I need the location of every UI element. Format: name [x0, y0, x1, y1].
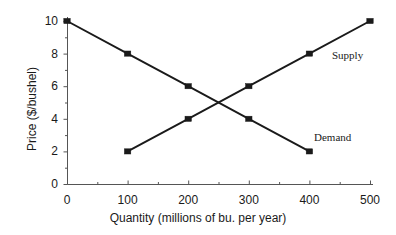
data-point-marker-supply-400 — [306, 51, 312, 56]
supply-demand-chart: 10 8 6 4 2 0 0 100 200 300 400 500 Price… — [0, 0, 396, 235]
data-point-marker-supply-500 — [367, 18, 373, 23]
x-tick-label-200: 200 — [168, 194, 208, 206]
series-label-supply: Supply — [332, 50, 363, 61]
data-point-marker-demand-100 — [124, 51, 130, 56]
y-tick-label-8: 8 — [36, 48, 58, 60]
y-tick-label-6: 6 — [36, 80, 58, 92]
data-point-marker-demand-0 — [64, 18, 70, 23]
y-tick-label-0: 0 — [36, 178, 58, 190]
x-axis-title: Quantity (millions of bu. per year) — [0, 212, 396, 224]
data-point-marker-supply-100 — [124, 149, 130, 154]
data-point-marker-demand-200 — [185, 84, 191, 89]
x-tick-label-0: 0 — [47, 194, 87, 206]
x-tick-label-400: 400 — [289, 194, 329, 206]
y-tick-label-2: 2 — [36, 145, 58, 157]
x-tick-label-500: 500 — [350, 194, 390, 206]
y-tick-label-4: 4 — [36, 113, 58, 125]
data-point-marker-demand-300 — [246, 116, 252, 121]
data-point-marker-supply-300 — [246, 84, 252, 89]
x-tick-label-300: 300 — [229, 194, 269, 206]
y-axis-title: Price ($/bushel) — [26, 66, 38, 150]
series-label-demand: Demand — [314, 132, 351, 143]
data-point-marker-supply-200 — [185, 116, 191, 121]
data-point-marker-demand-400 — [306, 149, 312, 154]
x-tick-label-100: 100 — [108, 194, 148, 206]
y-tick-label-10: 10 — [36, 15, 58, 27]
